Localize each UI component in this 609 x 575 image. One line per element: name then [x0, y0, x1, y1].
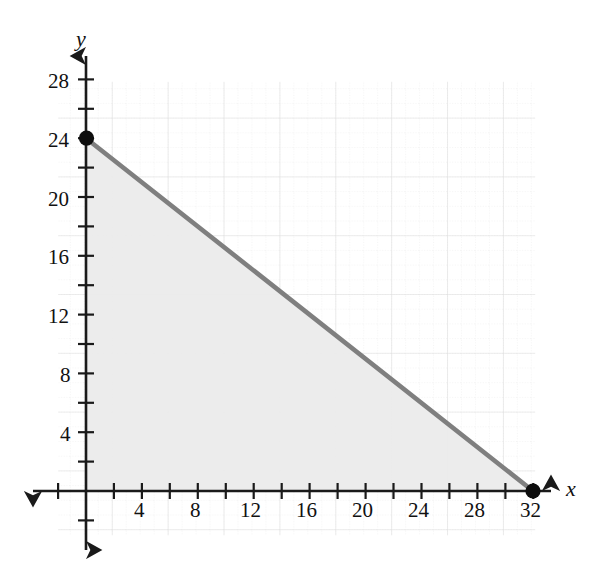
x-tick-label-8: 8: [190, 500, 201, 521]
y-tick-label-28: 28: [48, 71, 69, 92]
coordinate-plane-plot: [0, 0, 609, 575]
y-tick-label-8: 8: [60, 365, 71, 386]
y-axis-label: y: [76, 28, 86, 50]
x-axis-label: x: [566, 478, 576, 500]
x-tick-label-28: 28: [464, 500, 485, 521]
y-tick-label-16: 16: [48, 247, 69, 268]
x-tick-label-16: 16: [296, 500, 317, 521]
x-tick-label-20: 20: [352, 500, 373, 521]
y-tick-label-4: 4: [60, 424, 71, 445]
marker-y-intercept: [79, 131, 94, 146]
x-tick-label-4: 4: [134, 500, 145, 521]
graph-figure: 4 8 12 16 20 24 28 32 4 8 12 16 20 24 28…: [0, 0, 609, 575]
y-tick-label-24: 24: [48, 130, 69, 151]
y-tick-label-12: 12: [48, 306, 69, 327]
y-tick-label-20: 20: [48, 189, 69, 210]
marker-x-intercept: [525, 483, 540, 498]
x-tick-label-12: 12: [240, 500, 261, 521]
x-tick-label-24: 24: [408, 500, 429, 521]
x-tick-label-32: 32: [520, 500, 541, 521]
